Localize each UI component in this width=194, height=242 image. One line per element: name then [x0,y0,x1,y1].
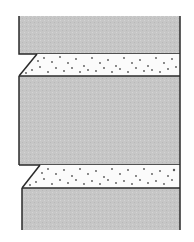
lower-sand-band [22,165,180,188]
upper-sand-band [19,54,180,76]
strata-diagram [0,0,194,242]
top-block [19,16,180,54]
